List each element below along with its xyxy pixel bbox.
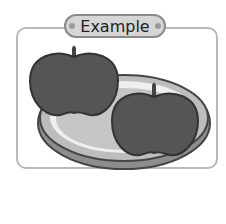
example-label: Example xyxy=(64,14,166,38)
apple-left xyxy=(30,46,118,116)
dot-icon xyxy=(155,23,161,29)
dot-icon xyxy=(69,23,75,29)
apples-on-plate-illustration xyxy=(16,45,216,170)
example-label-text: Example xyxy=(80,17,149,36)
